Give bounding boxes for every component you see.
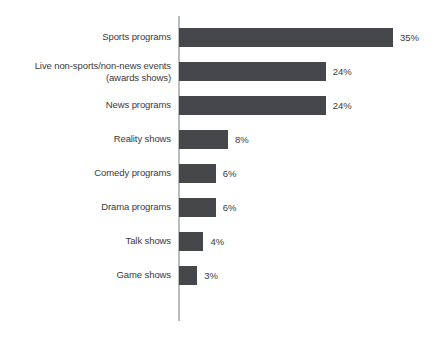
bar-row: News programs24% — [0, 96, 441, 115]
bar-row: Drama programs6% — [0, 198, 441, 217]
bar-value-label: 4% — [210, 236, 224, 247]
bar-category-label: News programs — [0, 99, 171, 111]
bar-category-label: Live non-sports/non-news events (awards … — [0, 60, 171, 83]
bar-value-label: 6% — [223, 202, 237, 213]
bar-category-label: Talk shows — [0, 235, 171, 247]
bar-value-label: 3% — [204, 270, 218, 281]
bar — [179, 198, 216, 217]
bar-row: Comedy programs6% — [0, 164, 441, 183]
bar-category-label: Sports programs — [0, 31, 171, 43]
bar — [179, 96, 326, 115]
bar — [179, 266, 197, 285]
bar-row: Live non-sports/non-news events (awards … — [0, 62, 441, 81]
bar-row: Sports programs35% — [0, 28, 441, 47]
bar-value-label: 6% — [223, 168, 237, 179]
bar-value-label: 24% — [333, 66, 352, 77]
bar-row: Talk shows4% — [0, 232, 441, 251]
bar-category-label: Reality shows — [0, 133, 171, 145]
bar-category-label: Drama programs — [0, 201, 171, 213]
bar — [179, 28, 393, 47]
bar-row: Game shows3% — [0, 266, 441, 285]
bar-value-label: 35% — [400, 32, 419, 43]
bar-category-label: Game shows — [0, 269, 171, 281]
bar-rows-container: Sports programs35%Live non-sports/non-ne… — [0, 0, 441, 337]
bar-value-label: 8% — [235, 134, 249, 145]
bar-chart: Sports programs35%Live non-sports/non-ne… — [0, 0, 441, 337]
bar — [179, 232, 203, 251]
bar — [179, 130, 228, 149]
bar-row: Reality shows8% — [0, 130, 441, 149]
bar — [179, 164, 216, 183]
bar-category-label: Comedy programs — [0, 167, 171, 179]
bar — [179, 62, 326, 81]
bar-value-label: 24% — [333, 100, 352, 111]
